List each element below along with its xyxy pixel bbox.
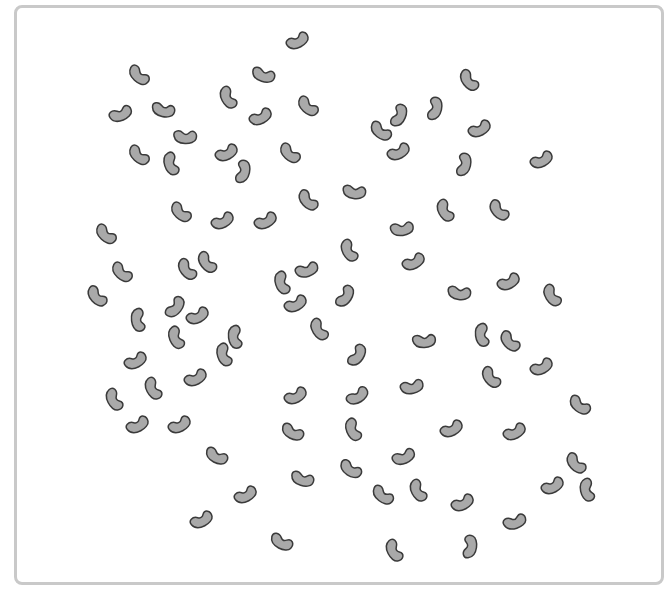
bean-shape [235,159,251,183]
bean-shape [93,222,118,246]
bean-shape [167,414,193,436]
bean-shape [496,271,522,293]
bean-shape [233,484,259,506]
bean-shape [456,152,472,176]
bean-shape [567,394,593,417]
bean-shape [427,96,443,120]
bean-shape [280,422,306,443]
bean-shape [168,200,193,224]
bean-shape [434,198,456,224]
bean-shape [540,283,563,309]
bean-shape [142,376,164,402]
bean-shape [251,66,276,84]
bean-shape [407,478,429,504]
bean-shape [109,260,134,284]
bean-shape [294,260,320,280]
bean-shape [399,378,424,396]
bean-shape [189,509,215,531]
bean-shape [368,120,394,143]
bean-shape [338,458,364,480]
bean-shape [269,532,295,553]
bean-shape [108,104,134,125]
bean-shape [283,385,309,407]
bean-shape [386,141,412,163]
bean-shape [370,484,396,507]
bean-shape [248,106,274,128]
bean-shape [345,385,371,408]
bean-shape [334,284,356,310]
bean-shape [307,317,330,343]
bean-shape [165,325,186,351]
bean-shape [439,418,465,440]
bean-shape [346,343,368,369]
bean-shape [486,198,511,223]
bean-shape [227,325,243,349]
bean-shape [529,149,555,171]
bean-shape [401,251,427,273]
bean-shape [578,477,596,502]
bean-shape [563,451,588,476]
bean-shape [383,538,405,564]
bean-shape [277,141,302,165]
bean-field [0,0,670,592]
bean-shape [529,356,555,378]
bean-shape [126,143,151,167]
bean-shape [214,142,240,164]
bean-shape [123,350,149,372]
bean-shape [342,185,366,200]
bean-shape [84,284,109,309]
bean-shape [390,103,410,129]
bean-shape [217,85,239,111]
bean-shape [391,447,417,468]
bean-shape [125,414,151,436]
bean-shape [295,94,320,118]
bean-shape [540,475,566,497]
bean-shape [502,512,528,532]
bean-shape [338,238,360,264]
bean-shape [467,118,493,140]
bean-shape [479,365,503,390]
bean-shape [253,210,279,232]
bean-shape [185,305,211,327]
bean-shape [502,421,528,443]
bean-shape [463,535,478,559]
bean-shape [283,293,309,315]
bean-shape [126,63,151,87]
bean-shape [103,387,125,413]
bean-shape [474,323,490,347]
bean-shape [447,286,471,301]
bean-shape [497,329,522,354]
bean-shape [161,151,181,177]
bean-shape [290,470,315,488]
bean-shape [151,102,175,118]
bean-shape [164,295,187,321]
bean-shape [272,270,292,296]
bean-shape [295,188,320,213]
bean-shape [174,131,197,144]
bean-shape [457,68,481,93]
bean-shape [130,308,146,332]
bean-shape [342,417,363,443]
bean-shape [285,30,311,52]
bean-shape [450,492,476,514]
bean-shape [214,342,234,368]
bean-shape [195,250,219,275]
bean-shape [412,334,436,349]
bean-shape [210,210,236,232]
bean-shape [204,446,230,467]
bean-shape [183,367,209,389]
bean-shape [175,257,199,282]
bean-shape [390,221,414,237]
